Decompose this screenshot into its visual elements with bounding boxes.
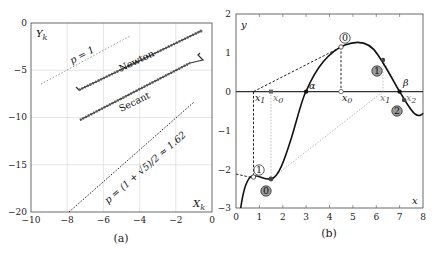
- ytick: 2: [225, 9, 231, 19]
- xtick: 0: [233, 212, 239, 222]
- x0-left-label: x0: [273, 92, 283, 105]
- ytick: −5: [14, 65, 28, 75]
- root-beta-point: [397, 89, 401, 93]
- svg-text:1: 1: [256, 164, 262, 175]
- xtick: 7: [397, 212, 403, 222]
- golden-label: p = (1 + √5)/2 ≈ 1.62: [102, 129, 188, 206]
- badge-2-right: 2: [392, 105, 402, 116]
- x1-left-label: x1: [255, 92, 265, 105]
- badge-0-right: 0: [340, 32, 350, 43]
- ylabel-b: y: [240, 19, 247, 30]
- secant-construction-lines: [271, 60, 405, 179]
- svg-text:2: 2: [394, 105, 400, 116]
- xtick: 2: [280, 212, 286, 222]
- badge-0-left: 0: [261, 185, 271, 196]
- p1-reference-line: [41, 36, 130, 84]
- ytick: 0: [225, 87, 231, 97]
- xticks-b: 0 1 2 3 4 5 6 7 8: [233, 212, 426, 222]
- xticks-a: −10 −8 −6 −4 −2 0: [22, 215, 216, 225]
- panel-b: 2 1 0 −1 −2 −3 0 1 2 3 4 5 6 7 8 y x: [218, 9, 426, 240]
- x0-right-label: x0: [342, 92, 352, 105]
- svg-text:0: 0: [342, 32, 348, 43]
- xtick: −10: [22, 215, 41, 225]
- newton-label: Newton: [117, 47, 156, 73]
- ytick: −10: [8, 112, 27, 122]
- left-iterate-0-point: [269, 177, 274, 182]
- badge-1-left: 1: [254, 164, 264, 175]
- xtick: 6: [373, 212, 379, 222]
- xtick: 4: [327, 212, 333, 222]
- ytick: 0: [21, 18, 27, 28]
- yticks-a: 0 −5 −10 −15 −20: [8, 18, 27, 217]
- figure: 0 −5 −10 −15 −20 −10 −8 −6 −4 −2 0 Yk Xk…: [0, 0, 436, 253]
- x1-right-label: x1: [380, 92, 390, 105]
- xlabel-b: x: [412, 195, 418, 206]
- xtick: 1: [257, 212, 263, 222]
- xtick: 0: [209, 215, 215, 225]
- function-curve: [241, 42, 423, 208]
- iterate-0-point: [339, 45, 343, 49]
- xtick: −6: [97, 215, 111, 225]
- ytick: 1: [225, 48, 231, 58]
- panel-a: 0 −5 −10 −15 −20 −10 −8 −6 −4 −2 0 Yk Xk…: [8, 18, 215, 245]
- ytick: −3: [218, 203, 232, 213]
- golden-reference-line: [69, 102, 194, 212]
- xtick: −4: [133, 215, 147, 225]
- xtick: 3: [303, 212, 309, 222]
- badge-1-right: 1: [372, 65, 382, 76]
- xlabel-a: Xk: [192, 198, 205, 212]
- xtick: −2: [169, 215, 182, 225]
- beta-label: β: [402, 77, 409, 88]
- ytick: −1: [218, 126, 231, 136]
- ytick: −15: [8, 160, 27, 170]
- root-alpha-point: [304, 89, 308, 93]
- ylabel-a: Yk: [36, 28, 48, 42]
- yticks-b: 2 1 0 −1 −2 −3: [218, 9, 232, 213]
- left-iterate-1-point: [251, 175, 255, 179]
- iterate-1-point: [381, 58, 385, 62]
- caption-a: (a): [113, 232, 128, 245]
- caption-b: (b): [321, 227, 337, 240]
- xtick: 8: [420, 212, 426, 222]
- alpha-label: α: [309, 80, 316, 91]
- newton-tangent-lines: [236, 47, 341, 178]
- ytick: −2: [218, 165, 231, 175]
- svg-text:0: 0: [263, 185, 269, 196]
- svg-text:1: 1: [374, 65, 380, 76]
- xtick: −8: [61, 215, 75, 225]
- xtick: 5: [350, 212, 356, 222]
- iterate-2-point: [402, 98, 406, 102]
